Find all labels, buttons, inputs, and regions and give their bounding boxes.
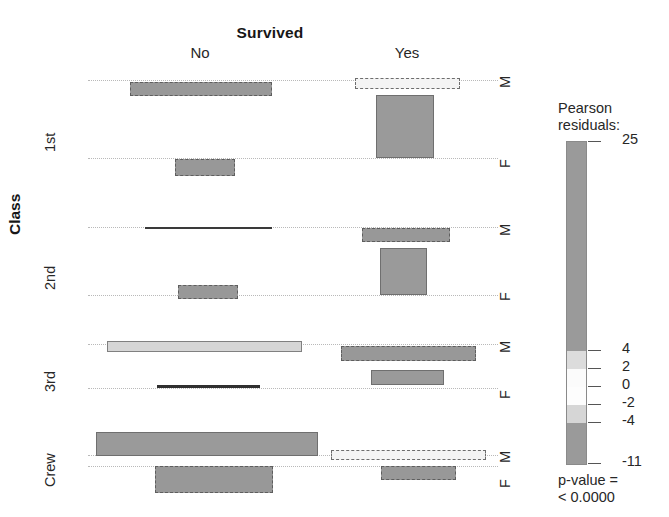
tile-crew-yes-m[interactable] bbox=[331, 450, 486, 460]
legend-segment-above-4 bbox=[567, 142, 586, 351]
column-label-yes: Yes bbox=[367, 44, 447, 61]
class-label-crew: Crew bbox=[42, 453, 58, 487]
sex-label-4-m: M bbox=[497, 341, 513, 353]
tile-1st-no-m[interactable] bbox=[130, 82, 272, 96]
tile-3rd-no-f[interactable] bbox=[157, 385, 260, 388]
legend-tick-label-1: 4 bbox=[622, 340, 630, 356]
y-axis-title: Class bbox=[6, 194, 24, 235]
legend-tick-2 bbox=[588, 368, 601, 369]
sex-label-6-m: M bbox=[497, 451, 513, 463]
mosaic-plot-figure: Survived No Yes Class 1st2nd3rdCrew MFMF… bbox=[0, 0, 669, 517]
class-label-2nd: 2nd bbox=[42, 266, 58, 290]
tile-crew-no-m[interactable] bbox=[96, 432, 318, 456]
plot-area: Survived No Yes Class 1st2nd3rdCrew MFMF… bbox=[0, 0, 540, 517]
p-value-line2: < 0.0000 bbox=[558, 489, 618, 506]
class-label-3rd: 3rd bbox=[42, 371, 58, 392]
tile-crew-yes-f[interactable] bbox=[381, 466, 456, 480]
legend-segment--4-to--2 bbox=[567, 405, 586, 423]
tile-crew-no-f[interactable] bbox=[155, 466, 273, 493]
tile-2nd-no-f[interactable] bbox=[178, 285, 238, 299]
legend-tick-1 bbox=[588, 350, 601, 351]
plot-title: Survived bbox=[0, 24, 540, 42]
tile-3rd-no-m[interactable] bbox=[107, 341, 302, 352]
legend-segment--2-to-0 bbox=[567, 387, 586, 405]
legend-tick-5 bbox=[588, 422, 601, 423]
sex-label-7-f: F bbox=[497, 479, 513, 488]
legend-tick-6 bbox=[588, 463, 601, 464]
tile-1st-yes-m[interactable] bbox=[355, 78, 460, 89]
column-label-no: No bbox=[160, 44, 240, 61]
tile-1st-no-f[interactable] bbox=[175, 159, 235, 176]
legend-color-bar bbox=[566, 141, 587, 465]
legend-tick-label-3: 0 bbox=[622, 376, 630, 392]
sex-label-3-f: F bbox=[497, 292, 513, 301]
legend-segment-2-to-4 bbox=[567, 351, 586, 369]
legend-tick-0 bbox=[588, 141, 601, 142]
baseline-r3-f bbox=[88, 388, 498, 389]
tile-3rd-yes-m[interactable] bbox=[341, 346, 476, 361]
legend: Pearson residuals: 25420-2-4-11 p-value … bbox=[552, 0, 669, 517]
legend-tick-4 bbox=[588, 404, 601, 405]
sex-label-0-m: M bbox=[497, 76, 513, 88]
tile-3rd-yes-f[interactable] bbox=[371, 370, 444, 385]
legend-tick-label-6: -11 bbox=[622, 453, 642, 469]
legend-tick-label-2: 2 bbox=[622, 358, 630, 374]
sex-label-5-f: F bbox=[497, 390, 513, 399]
legend-title: Pearson residuals: bbox=[558, 100, 620, 134]
legend-segment-0-to-2 bbox=[567, 369, 586, 387]
legend-tick-label-4: -2 bbox=[622, 394, 635, 410]
tile-2nd-yes-f[interactable] bbox=[380, 248, 427, 295]
baseline-r2-f bbox=[88, 295, 498, 296]
sex-label-1-f: F bbox=[497, 159, 513, 168]
p-value-annotation: p-value = < 0.0000 bbox=[558, 472, 618, 506]
tile-2nd-no-m[interactable] bbox=[145, 227, 272, 229]
baseline-r1-f bbox=[88, 158, 498, 159]
class-label-1st: 1st bbox=[42, 133, 58, 152]
legend-tick-label-5: -4 bbox=[622, 412, 635, 428]
legend-segment-below--4 bbox=[567, 423, 586, 464]
tile-2nd-yes-m[interactable] bbox=[362, 228, 450, 242]
sex-label-2-m: M bbox=[497, 224, 513, 236]
tile-1st-yes-f[interactable] bbox=[376, 95, 434, 158]
p-value-line1: p-value = bbox=[558, 472, 618, 489]
legend-title-line1: Pearson bbox=[558, 100, 620, 117]
legend-tick-label-0: 25 bbox=[622, 131, 638, 147]
legend-title-line2: residuals: bbox=[558, 117, 620, 134]
legend-tick-3 bbox=[588, 386, 601, 387]
